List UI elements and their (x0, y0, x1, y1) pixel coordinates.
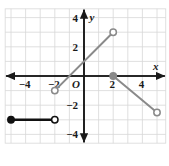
closed-endpoint-segment-3-0 (110, 73, 116, 79)
y-axis-label: y (88, 11, 95, 23)
y-tick-label-4: 4 (73, 12, 79, 24)
x-axis-label: x (152, 60, 159, 72)
y-tick-label-2: 2 (73, 41, 79, 53)
x-tick-label-neg4: −4 (19, 78, 31, 90)
open-endpoint-segment-1-1 (52, 117, 58, 123)
origin-label: O (72, 78, 80, 90)
closed-endpoint-segment-1-0 (8, 117, 14, 123)
open-endpoint-segment-2-0 (52, 87, 58, 93)
open-endpoint-segment-2-1 (110, 29, 116, 35)
coordinate-plane-graph: −4−22442−2−4xyO (0, 0, 169, 166)
y-tick-label-neg2: −2 (66, 99, 78, 111)
figure-canvas: −4−22442−2−4xyO (0, 0, 169, 166)
y-tick-label-neg4: −4 (66, 128, 78, 140)
open-endpoint-segment-3-1 (154, 109, 160, 115)
x-tick-label-4: 4 (139, 78, 145, 90)
